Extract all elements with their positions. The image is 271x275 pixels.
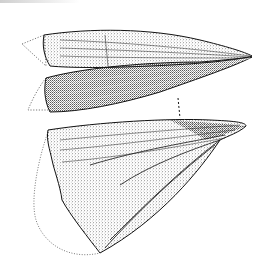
shell-illustration — [0, 0, 271, 275]
bottom-valve — [34, 119, 246, 254]
